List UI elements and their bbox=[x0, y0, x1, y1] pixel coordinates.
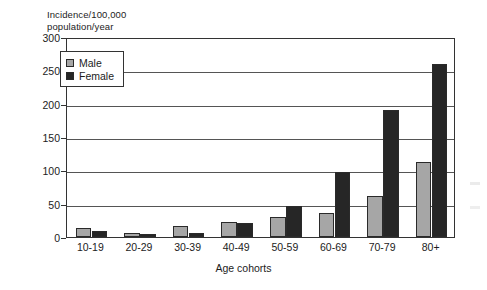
bar-female-60-69 bbox=[335, 172, 351, 237]
legend-item-female: Female bbox=[66, 69, 114, 82]
legend-label-female: Female bbox=[79, 70, 114, 82]
bar-male-10-19 bbox=[76, 228, 92, 237]
bar-chart-figure: Incidence/100,000 population/year 050100… bbox=[0, 0, 487, 290]
bar-male-50-59 bbox=[270, 217, 286, 237]
bar-group-50-59 bbox=[270, 39, 302, 237]
plot-area bbox=[66, 38, 455, 238]
y-tick-label-0: 0 bbox=[26, 232, 60, 244]
y-tick-label-150: 150 bbox=[26, 132, 60, 144]
y-axis-title: Incidence/100,000 population/year bbox=[47, 9, 126, 32]
x-tick-label-30-39: 30-39 bbox=[174, 241, 201, 253]
x-tick-label-20-29: 20-29 bbox=[126, 241, 153, 253]
legend-swatch-male-icon bbox=[66, 59, 74, 67]
x-tick-label-40-49: 40-49 bbox=[223, 241, 250, 253]
y-tick-label-50: 50 bbox=[26, 199, 60, 211]
x-tick-label-80+: 80+ bbox=[422, 241, 440, 253]
bar-male-40-49 bbox=[221, 222, 237, 237]
y-tick-label-250: 250 bbox=[26, 65, 60, 77]
x-axis-title: Age cohorts bbox=[0, 262, 487, 274]
scan-edge-artifact bbox=[470, 176, 480, 242]
x-tick-label-70-79: 70-79 bbox=[369, 241, 396, 253]
bar-group-40-49 bbox=[221, 39, 253, 237]
y-tick-label-100: 100 bbox=[26, 165, 60, 177]
chart-legend: Male Female bbox=[60, 51, 124, 87]
bar-female-80+ bbox=[432, 64, 448, 237]
bar-female-50-59 bbox=[286, 206, 302, 237]
bar-group-70-79 bbox=[367, 39, 399, 237]
bar-group-30-39 bbox=[173, 39, 205, 237]
x-tick-label-50-59: 50-59 bbox=[271, 241, 298, 253]
bar-male-30-39 bbox=[173, 226, 189, 237]
bar-male-80+ bbox=[416, 162, 432, 237]
x-tick-label-10-19: 10-19 bbox=[77, 241, 104, 253]
bar-female-70-79 bbox=[383, 110, 399, 237]
y-tick-mark-0 bbox=[61, 238, 66, 239]
bar-group-20-29 bbox=[124, 39, 156, 237]
x-tick-label-60-69: 60-69 bbox=[320, 241, 347, 253]
bar-male-70-79 bbox=[367, 196, 383, 237]
bar-male-20-29 bbox=[124, 233, 140, 237]
bar-group-60-69 bbox=[319, 39, 351, 237]
legend-swatch-female-icon bbox=[66, 72, 74, 80]
bar-female-30-39 bbox=[189, 233, 205, 237]
legend-item-male: Male bbox=[66, 56, 114, 69]
bar-female-40-49 bbox=[237, 223, 253, 237]
y-tick-label-200: 200 bbox=[26, 99, 60, 111]
legend-label-male: Male bbox=[79, 57, 102, 69]
bar-female-20-29 bbox=[140, 234, 156, 237]
bar-group-80+ bbox=[416, 39, 448, 237]
y-tick-label-300: 300 bbox=[26, 32, 60, 44]
bar-male-60-69 bbox=[319, 213, 335, 237]
bar-female-10-19 bbox=[92, 231, 108, 237]
